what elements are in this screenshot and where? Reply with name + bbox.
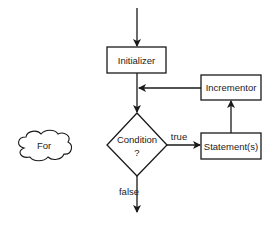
statements-node: Statement(s)	[201, 133, 261, 159]
for-cloud-node: For	[19, 130, 72, 161]
incrementor-node: Incrementor	[201, 75, 261, 100]
condition-question-mark: ?	[134, 147, 139, 158]
false-label: false	[119, 186, 139, 197]
initializer-node: Initializer	[107, 47, 166, 73]
condition-label: Condition	[117, 134, 157, 145]
flowchart: Initializer Incrementor Condition ? true…	[0, 0, 275, 226]
true-label: true	[171, 131, 187, 142]
statements-label: Statement(s)	[204, 141, 258, 152]
condition-node: Condition ?	[107, 113, 167, 176]
incrementor-label: Incrementor	[206, 82, 257, 93]
initializer-label: Initializer	[118, 55, 156, 66]
cloud-label: For	[37, 140, 51, 151]
